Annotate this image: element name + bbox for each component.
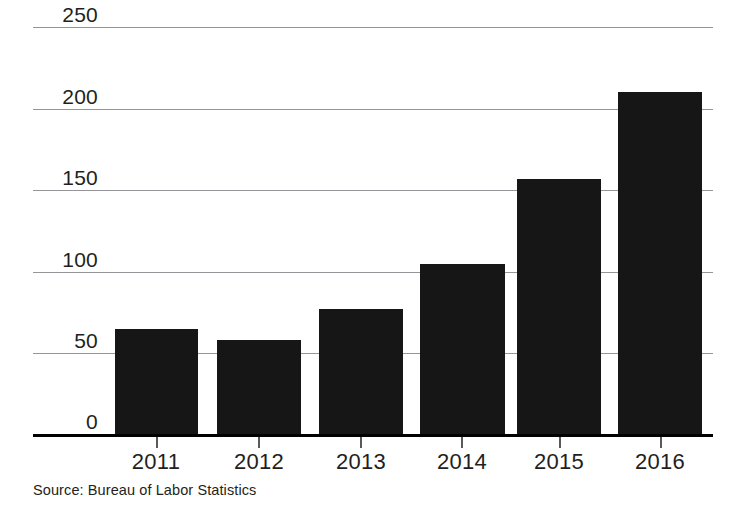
y-axis-label-250: 250 bbox=[30, 4, 98, 25]
x-axis-label-2011: 2011 bbox=[101, 450, 211, 474]
x-axis-tick-mark-5 bbox=[559, 437, 561, 448]
y-axis-label-50: 50 bbox=[30, 330, 98, 351]
x-axis-label-2013: 2013 bbox=[306, 450, 416, 474]
y-axis-label-0: 0 bbox=[30, 411, 98, 432]
y-axis-label-100: 100 bbox=[30, 249, 98, 270]
x-axis-baseline bbox=[33, 434, 713, 437]
x-axis-label-2014: 2014 bbox=[407, 450, 517, 474]
bars-layer bbox=[0, 0, 744, 470]
plot-area: 250 200 150 100 50 0 2011 2012 2013 2014… bbox=[0, 0, 744, 470]
bar-2014 bbox=[420, 264, 505, 435]
x-axis-label-2012: 2012 bbox=[204, 450, 314, 474]
x-axis-tick-mark-3 bbox=[360, 437, 362, 448]
y-axis-label-200: 200 bbox=[30, 86, 98, 107]
y-axis-label-150: 150 bbox=[30, 167, 98, 188]
source-note: Source: Bureau of Labor Statistics bbox=[33, 481, 256, 499]
bar-2013 bbox=[319, 309, 403, 435]
x-axis-tick-mark-4 bbox=[461, 437, 463, 448]
x-axis-label-2015: 2015 bbox=[504, 450, 614, 474]
bar-2012 bbox=[217, 340, 301, 435]
x-axis-tick-mark-2 bbox=[258, 437, 260, 448]
x-axis-label-2016: 2016 bbox=[605, 450, 715, 474]
bar-2015 bbox=[517, 179, 601, 435]
bar-chart-figure: 250 200 150 100 50 0 2011 2012 2013 2014… bbox=[0, 0, 744, 527]
bar-2016 bbox=[618, 92, 702, 435]
x-axis-tick-mark-1 bbox=[156, 437, 158, 448]
x-axis-tick-mark-6 bbox=[660, 437, 662, 448]
bar-2011 bbox=[115, 329, 198, 435]
